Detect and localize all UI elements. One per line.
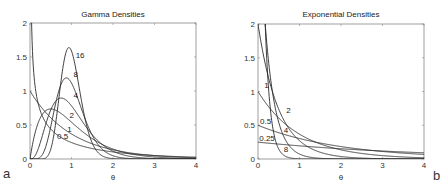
plot-frame: [30, 23, 196, 159]
figure: Gamma Densities 0123400.511.52 0.5124816…: [0, 0, 445, 190]
y-tick-label: 0: [251, 155, 256, 164]
curve-label: 4: [284, 126, 289, 135]
curve-labels: 0.250.51248: [259, 81, 291, 154]
x-tick-label: 2: [111, 161, 116, 170]
x-tick-label: 3: [152, 161, 157, 170]
axis-ticks: 0123400.511.52: [16, 19, 199, 170]
curve-label: 1: [67, 125, 72, 134]
density-curve-8: [30, 78, 196, 159]
exponential-chart: Exponential Densities 0123400.511.52 0.2…: [244, 0, 440, 183]
density-curve-16: [30, 48, 196, 159]
curve-label: 1: [264, 81, 269, 90]
y-tick-label: 2: [23, 19, 28, 28]
y-tick-label: 1.5: [16, 53, 28, 62]
y-tick-label: 1.5: [244, 54, 256, 63]
x-tick-label: 4: [422, 161, 427, 170]
y-tick-label: 2: [251, 20, 256, 29]
density-curve-1: [30, 91, 196, 158]
gamma-chart: Gamma Densities 0123400.511.52 0.5124816…: [3, 0, 199, 182]
curve-label: 4: [74, 91, 79, 100]
panel-label: b: [433, 168, 440, 183]
y-tick-label: 0.5: [244, 121, 256, 130]
axis-ticks: 0123400.511.52: [244, 20, 427, 170]
curve-label: 8: [284, 145, 289, 154]
x-tick-label: 0: [28, 161, 33, 170]
x-tick-label: 2: [339, 161, 344, 170]
x-tick-label: 4: [194, 161, 199, 170]
chart-title: Gamma Densities: [81, 10, 145, 19]
density-curve-2: [258, 24, 424, 159]
plot-frame: [258, 24, 424, 159]
y-tick-label: 1: [23, 87, 28, 96]
x-axis-label: θ: [339, 173, 344, 182]
x-tick-label: 3: [380, 161, 385, 170]
y-tick-label: 0: [23, 155, 28, 164]
curve-label: 16: [76, 51, 85, 60]
x-tick-label: 1: [297, 161, 302, 170]
curve-label: 0.5: [260, 117, 272, 126]
x-tick-label: 1: [69, 161, 74, 170]
curve-label: 8: [74, 70, 79, 79]
curve-label: 2: [286, 106, 291, 115]
x-tick-label: 0: [256, 161, 261, 170]
panel-label: a: [3, 166, 11, 181]
x-axis-label: θ: [111, 173, 116, 182]
curve-label: 2: [69, 111, 74, 120]
y-tick-label: 1: [251, 88, 256, 97]
curve-label: 0.25: [259, 134, 275, 143]
chart-title: Exponential Densities: [303, 10, 380, 19]
y-tick-label: 0.5: [16, 121, 28, 130]
